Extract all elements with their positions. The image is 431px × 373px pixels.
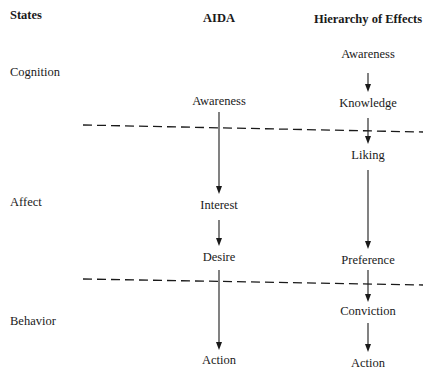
hoe-arrows (365, 73, 371, 352)
divider-affect-behavior (83, 279, 423, 285)
divider-cognition-affect (83, 125, 423, 132)
aida-arrows (216, 112, 222, 350)
diagram-lines (0, 0, 431, 373)
